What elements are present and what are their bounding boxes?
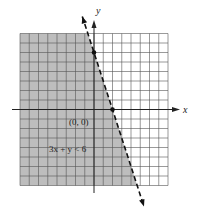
test-point-label: (0, 0) — [69, 117, 89, 127]
inequality-label: 3x + y < 6 — [49, 144, 87, 154]
y-axis-label: y — [95, 5, 101, 16]
x-axis-label: x — [182, 104, 188, 115]
inequality-graph: x y (0, 0) 3x + y < 6 — [0, 0, 199, 217]
